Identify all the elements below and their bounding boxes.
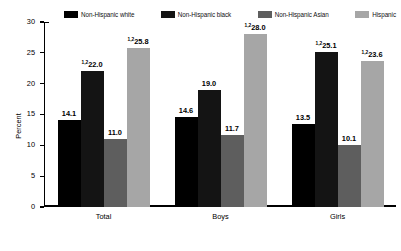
legend-item-label: Non-Hispanic white	[81, 11, 134, 18]
bar-value-footnote: 1,2	[315, 41, 322, 46]
bar-group-bars: 14.11,222.011.01,225.8	[45, 22, 162, 207]
y-axis-tick-label: 30	[27, 18, 35, 26]
bar-value-footnote: 1,2	[81, 60, 88, 65]
y-axis-tick-label: 5	[31, 172, 35, 180]
bar[interactable]	[221, 135, 244, 207]
y-axis-tick: 25	[40, 52, 44, 53]
legend-swatch-icon	[161, 11, 175, 18]
y-axis-tick-label: 25	[27, 49, 35, 57]
bar-value-footnote: 1,2	[244, 23, 251, 28]
bar[interactable]	[244, 34, 267, 207]
bar[interactable]	[361, 61, 384, 207]
y-axis-tick: 15	[40, 114, 44, 115]
bar-column[interactable]: 13.5	[292, 22, 315, 207]
bar-group: 13.51,225.110.11,223.6Girls	[279, 22, 396, 207]
bar-column[interactable]: 11.0	[104, 22, 127, 207]
x-axis-group-label: Total	[45, 212, 162, 221]
bar[interactable]	[127, 48, 150, 207]
bar-value-label: 1,223.6	[361, 51, 382, 59]
legend-item[interactable]: Non-Hispanic white	[64, 11, 134, 18]
bar-value-label: 1,222.0	[81, 61, 102, 69]
legend-swatch-icon	[355, 11, 369, 18]
legend-item-label: Non-Hispanic black	[178, 11, 231, 18]
bar-value-label: 1,228.0	[244, 24, 265, 32]
y-axis-tick-label: 20	[27, 80, 35, 88]
y-axis-tick-label: 10	[27, 141, 35, 149]
bar-column[interactable]: 19.0	[198, 22, 221, 207]
y-axis-tick-label: 0	[31, 203, 35, 211]
bar-group-bars: 14.619.011.71,228.0	[162, 22, 279, 207]
bar-value-label: 1,225.1	[315, 42, 336, 50]
bar-value-label: 1,225.8	[127, 38, 148, 46]
bar-value-label: 11.7	[225, 125, 239, 133]
bar-column[interactable]: 1,225.8	[127, 22, 150, 207]
bar-group-bars: 13.51,225.110.11,223.6	[279, 22, 396, 207]
y-axis-tick: 0	[40, 206, 44, 207]
y-axis-tick: 5	[40, 176, 44, 177]
y-axis-tick: 30	[40, 21, 44, 22]
plot-area: 051015202530 14.11,222.011.01,225.8Total…	[44, 22, 396, 207]
bar[interactable]	[198, 90, 221, 207]
bar[interactable]	[58, 120, 81, 207]
bar-column[interactable]: 10.1	[338, 22, 361, 207]
legend-item[interactable]: Non-Hispanic black	[161, 11, 231, 18]
bar-value-label: 13.5	[296, 114, 310, 122]
bar-column[interactable]: 1,223.6	[361, 22, 384, 207]
bar-value-label: 14.6	[179, 107, 193, 115]
bar-value-label: 14.1	[62, 110, 76, 118]
chart-legend: Non-Hispanic whiteNon-Hispanic blackNon-…	[64, 8, 396, 20]
bar-groups: 14.11,222.011.01,225.8Total14.619.011.71…	[45, 22, 396, 207]
bar-value-label: 19.0	[202, 80, 216, 88]
y-axis-title: Percent	[14, 113, 23, 138]
y-axis-tick-label: 15	[27, 110, 35, 118]
bar-value-footnote: 1,2	[361, 50, 368, 55]
x-axis-group-label: Boys	[162, 212, 279, 221]
bar[interactable]	[338, 145, 361, 207]
bar-value-footnote: 1,2	[127, 36, 134, 41]
legend-swatch-icon	[258, 11, 272, 18]
bar-column[interactable]: 14.1	[58, 22, 81, 207]
legend-item-label: Hispanic	[372, 11, 396, 18]
bar[interactable]	[81, 71, 104, 207]
legend-item[interactable]: Hispanic	[355, 11, 396, 18]
bar-group: 14.11,222.011.01,225.8Total	[45, 22, 162, 207]
bar-column[interactable]: 11.7	[221, 22, 244, 207]
bar-group: 14.619.011.71,228.0Boys	[162, 22, 279, 207]
bar-column[interactable]: 14.6	[175, 22, 198, 207]
legend-item-label: Non-Hispanic Asian	[275, 11, 329, 18]
legend-swatch-icon	[64, 11, 78, 18]
bar-chart: Non-Hispanic whiteNon-Hispanic blackNon-…	[0, 0, 401, 251]
y-axis-tick: 20	[40, 83, 44, 84]
bar[interactable]	[292, 124, 315, 207]
legend-item[interactable]: Non-Hispanic Asian	[258, 11, 329, 18]
bar-value-label: 10.1	[342, 135, 356, 143]
bar-column[interactable]: 1,228.0	[244, 22, 267, 207]
bar-value-label: 11.0	[108, 129, 122, 137]
y-axis-tick: 10	[40, 145, 44, 146]
bar-column[interactable]: 1,222.0	[81, 22, 104, 207]
bar-column[interactable]: 1,225.1	[315, 22, 338, 207]
x-axis-group-label: Girls	[279, 212, 396, 221]
bar[interactable]	[175, 117, 198, 207]
bar[interactable]	[315, 52, 338, 207]
bar[interactable]	[104, 139, 127, 207]
